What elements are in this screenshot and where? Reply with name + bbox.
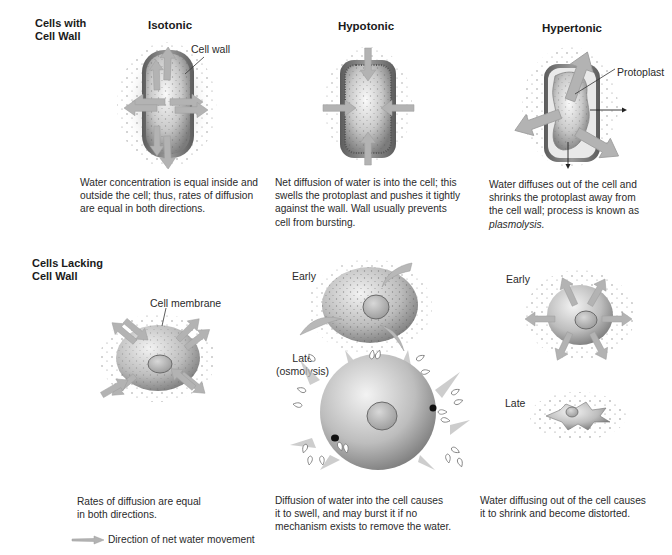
hypertonic-walled-cell-illustration [515, 42, 645, 172]
hypotonic-walled-cell-illustration [320, 45, 420, 165]
column-heading-isotonic: Isotonic [120, 19, 220, 31]
caption-walled-isotonic: Water concentration is equal inside and … [80, 176, 280, 216]
caption-membrane-isotonic: Rates of diffusion are equal in both dir… [77, 495, 267, 521]
caption-line: mechanism exists to remove the water. [275, 520, 475, 533]
caption-line: against the wall. Wall usually prevents [275, 202, 475, 215]
caption-line: Water diffusing out of the cell causes [480, 494, 670, 507]
caption-line: it to swell, and may burst it if no [275, 507, 475, 520]
caption-line: Water concentration is equal inside and [80, 176, 280, 189]
column-heading-hypertonic: Hypertonic [522, 22, 622, 34]
isotonic-membrane-cell-illustration [100, 310, 220, 405]
row-heading-line: Cell Wall [35, 30, 86, 43]
caption-membrane-hypotonic: Diffusion of water into the cell causes … [275, 494, 475, 534]
legend: Direction of net water movement [72, 533, 255, 546]
caption-line: it to shrink and become distorted. [480, 507, 670, 520]
caption-membrane-hypertonic: Water diffusing out of the cell causes i… [480, 494, 670, 520]
isotonic-walled-cell-illustration [115, 40, 235, 170]
row-heading-line: Cell Wall [32, 270, 103, 283]
cell-wall-label: Cell wall [191, 43, 230, 56]
gray-arrow-icon [72, 535, 104, 545]
caption-line: swells the protoplast and pushes it tigh… [275, 189, 475, 202]
hypertonic-late-cell-illustration [528, 390, 628, 442]
caption-line: in both directions. [77, 508, 267, 521]
caption-walled-hypotonic: Net diffusion of water is into the cell;… [275, 176, 475, 229]
cell-membrane-label: Cell membrane [150, 297, 221, 310]
row-heading-cells-with-wall: Cells with Cell Wall [35, 17, 86, 43]
caption-line: are equal in both directions. [80, 202, 280, 215]
caption-line: Diffusion of water into the cell causes [275, 494, 475, 507]
hypotonic-early-cell-illustration [300, 255, 440, 355]
legend-text: Direction of net water movement [108, 533, 255, 546]
row-heading-cells-lacking-wall: Cells Lacking Cell Wall [32, 257, 103, 283]
caption-line: Net diffusion of water is into the cell;… [275, 176, 475, 189]
column-heading-hypotonic: Hypotonic [316, 20, 416, 32]
protoplast-label: Protoplast [617, 66, 664, 79]
row-heading-line: Cells Lacking [32, 257, 103, 270]
caption-line: Water diffuses out of the cell and [489, 178, 669, 191]
caption-line: cell from bursting. [275, 216, 475, 229]
caption-line: Rates of diffusion are equal [77, 495, 267, 508]
hypertonic-early-cell-illustration [520, 265, 640, 365]
row-heading-line: Cells with [35, 17, 86, 30]
caption-line: outside the cell; thus, rates of diffusi… [80, 189, 280, 202]
caption-line: the cell wall; process is known as [489, 204, 669, 217]
hypertonic-late-label: Late [505, 397, 525, 410]
caption-walled-hypertonic: Water diffuses out of the cell and shrin… [489, 178, 669, 231]
caption-line: shrinks the protoplast away from [489, 191, 669, 204]
hypotonic-late-osmolysis-illustration [290, 350, 470, 470]
plasmolysis-term: plasmolysis. [489, 219, 544, 230]
